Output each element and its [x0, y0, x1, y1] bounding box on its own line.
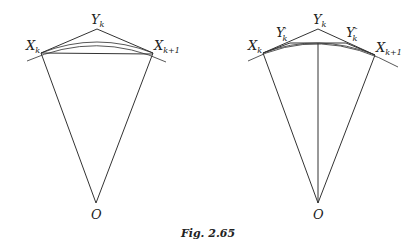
right-diagram: Xk Y′k Yk Y″k Xk+1 O: [247, 12, 402, 222]
right-radius-1: [263, 53, 318, 203]
figure-canvas: Xk Yk Xk+1 O Xk Y′k: [0, 0, 416, 245]
right-label-yk-dprime: Y″k: [346, 25, 358, 43]
right-radius-2: [318, 55, 375, 203]
left-diagram: Xk Yk Xk+1 O: [25, 12, 180, 222]
left-radius-2: [96, 53, 153, 203]
left-label-xk: Xk: [25, 38, 40, 55]
left-tangent-2: [97, 29, 153, 53]
left-label-xk1: Xk+1: [153, 38, 180, 55]
left-label-o: O: [91, 207, 102, 222]
left-chord: [41, 53, 153, 54]
right-label-yk-prime: Y′k: [276, 25, 287, 43]
figure-caption: Fig. 2.65: [180, 227, 235, 240]
left-label-yk: Yk: [91, 12, 105, 29]
right-tangent-1: [263, 29, 318, 53]
right-label-yk: Yk: [313, 12, 327, 29]
right-label-xk1: Xk+1: [375, 40, 402, 57]
right-label-xk: Xk: [247, 38, 262, 55]
right-label-o: O: [313, 207, 324, 222]
left-tangent-1: [41, 29, 97, 53]
left-radius-1: [41, 53, 96, 203]
